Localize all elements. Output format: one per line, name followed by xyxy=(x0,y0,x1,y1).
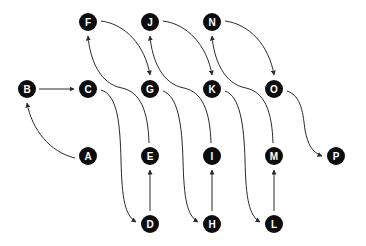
node-label: O xyxy=(270,84,278,95)
node-label: J xyxy=(147,17,153,28)
node-label: M xyxy=(270,151,278,162)
node-k: K xyxy=(203,80,221,98)
node-label: D xyxy=(146,219,153,230)
node-label: P xyxy=(333,151,340,162)
node-f: F xyxy=(79,13,97,31)
node-l: L xyxy=(265,215,283,233)
edge-a-to-b xyxy=(27,103,75,158)
nodes-layer: ABCDEFGHIJKLMNOP xyxy=(18,13,345,233)
node-m: M xyxy=(265,147,283,165)
node-g: G xyxy=(141,80,159,98)
node-label: A xyxy=(84,151,91,162)
node-j: J xyxy=(141,13,159,31)
node-c: C xyxy=(79,80,97,98)
node-label: K xyxy=(208,84,216,95)
node-o: O xyxy=(265,80,283,98)
edge-j-to-k xyxy=(163,21,212,75)
edge-e-to-f xyxy=(88,36,149,143)
node-e: E xyxy=(141,147,159,165)
edge-f-to-g xyxy=(101,21,150,75)
edge-o-to-p xyxy=(287,91,322,156)
edge-n-to-o xyxy=(225,21,274,75)
node-label: C xyxy=(84,84,91,95)
node-label: F xyxy=(85,17,91,28)
node-label: L xyxy=(271,219,277,230)
node-a: A xyxy=(79,147,97,165)
edge-k-to-l xyxy=(225,91,260,222)
node-d: D xyxy=(141,215,159,233)
node-h: H xyxy=(203,215,221,233)
node-label: H xyxy=(208,219,215,230)
edge-c-to-d xyxy=(101,90,136,222)
edge-g-to-h xyxy=(163,91,198,222)
node-n: N xyxy=(203,13,221,31)
node-label: B xyxy=(23,84,30,95)
node-b: B xyxy=(18,80,36,98)
node-label: G xyxy=(146,84,154,95)
node-label: N xyxy=(208,17,215,28)
node-i: I xyxy=(203,147,221,165)
node-label: I xyxy=(211,151,214,162)
node-label: E xyxy=(147,151,154,162)
sequence-graph-diagram: ABCDEFGHIJKLMNOP xyxy=(0,0,366,246)
edges-layer xyxy=(27,21,322,222)
node-p: P xyxy=(327,147,345,165)
